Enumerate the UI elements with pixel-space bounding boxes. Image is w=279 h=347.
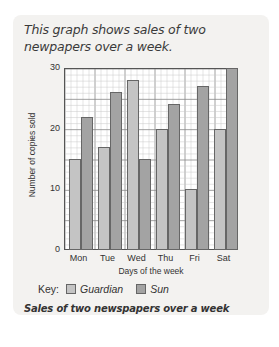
intro-text: This graph shows sales of two newpapers … xyxy=(24,21,264,55)
bar-sun-wed xyxy=(139,159,151,250)
legend-label-sun: Sun xyxy=(150,283,169,295)
bar-guardian-mon xyxy=(69,159,81,250)
bar-sun-mon xyxy=(81,117,93,250)
x-tick-label: Sat xyxy=(209,253,238,263)
x-tick-label: Tue xyxy=(93,253,122,263)
legend-swatch-sun xyxy=(136,284,146,294)
x-tick-label: Thu xyxy=(151,253,180,263)
bar-guardian-tue xyxy=(98,147,110,250)
x-tick-label: Wed xyxy=(122,253,151,263)
bar-guardian-thu xyxy=(156,129,168,250)
x-tick-label: Mon xyxy=(64,253,93,263)
x-tick-label: Fri xyxy=(180,253,209,263)
bar-sun-fri xyxy=(197,86,209,250)
y-axis-label: Number of copies sold xyxy=(27,105,37,205)
bar-sun-tue xyxy=(110,92,122,250)
bar-guardian-fri xyxy=(185,189,197,250)
legend: Key: Guardian Sun xyxy=(38,283,175,295)
legend-label-guardian: Guardian xyxy=(80,283,123,295)
legend-title: Key: xyxy=(38,283,59,295)
bar-guardian-sat xyxy=(214,129,226,250)
y-tick-label: 30 xyxy=(44,62,60,72)
bar-sun-thu xyxy=(168,104,180,250)
bar-sun-sat xyxy=(226,68,238,250)
x-axis-label: Days of the week xyxy=(64,266,238,276)
y-tick-label: 10 xyxy=(44,183,60,193)
y-tick-label: 0 xyxy=(44,244,60,254)
bar-guardian-wed xyxy=(127,80,139,250)
y-tick-label: 20 xyxy=(44,123,60,133)
legend-swatch-guardian xyxy=(66,284,76,294)
chart-caption: Sales of two newspapers over a week xyxy=(24,303,229,314)
